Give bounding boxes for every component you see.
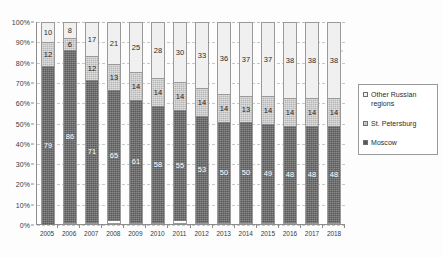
segment-moscow[interactable]: 79 xyxy=(42,67,55,225)
bar-slot: 301455 xyxy=(169,22,191,224)
data-label: 12 xyxy=(88,65,97,73)
legend-item[interactable]: St. Petersburg xyxy=(363,120,433,129)
stacked-bar[interactable]: 371350 xyxy=(239,22,254,224)
segment-other-russian-regions[interactable]: 10 xyxy=(42,23,55,43)
stacked-bar[interactable]: 171271 xyxy=(85,22,100,224)
segment-moscow[interactable]: 50 xyxy=(240,123,253,223)
segment-moscow[interactable]: 58 xyxy=(152,107,165,223)
data-label: 55 xyxy=(176,162,185,170)
data-label: 38 xyxy=(308,57,317,65)
data-label: 37 xyxy=(242,56,251,64)
segment-other-russian-regions[interactable]: 8 xyxy=(64,23,77,39)
segment-moscow[interactable]: 86 xyxy=(64,51,77,223)
stacked-bar[interactable]: 381448 xyxy=(305,22,320,224)
segment-moscow[interactable]: 65 xyxy=(108,91,121,221)
stacked-bar[interactable]: 8686 xyxy=(63,22,78,224)
segment-other-russian-regions[interactable]: 38 xyxy=(328,23,341,99)
segment-other-russian-regions[interactable]: 25 xyxy=(130,23,143,73)
segment-moscow[interactable]: 50 xyxy=(218,123,231,223)
y-axis-label: 60% xyxy=(16,100,30,107)
y-axis-label: 0% xyxy=(20,222,30,229)
segment-st-petersburg[interactable]: 13 xyxy=(240,97,253,123)
stacked-bar[interactable]: 331453 xyxy=(195,22,210,224)
y-axis-tick xyxy=(31,62,34,63)
bar-slot: 251461 xyxy=(125,22,147,224)
data-label: 8 xyxy=(68,27,72,35)
y-axis-tick xyxy=(31,123,34,124)
segment-st-petersburg[interactable]: 14 xyxy=(306,99,319,127)
stacked-bar[interactable]: 381448 xyxy=(283,22,298,224)
data-label: 14 xyxy=(132,83,141,91)
segment-moscow[interactable]: 71 xyxy=(86,81,99,223)
segment-st-petersburg[interactable]: 13 xyxy=(108,65,121,91)
stacked-bar[interactable]: 101279 xyxy=(41,22,56,224)
y-axis-label: 30% xyxy=(16,161,30,168)
bar-slot: 381448 xyxy=(323,22,345,224)
x-axis-label: 2014 xyxy=(235,227,257,243)
bar-slot: 381448 xyxy=(301,22,323,224)
segment-st-petersburg[interactable]: 14 xyxy=(130,73,143,101)
segment-st-petersburg[interactable]: 12 xyxy=(42,43,55,67)
data-label: 21 xyxy=(110,40,119,48)
segment-moscow[interactable]: 48 xyxy=(328,127,341,223)
legend-swatch-icon xyxy=(363,92,368,97)
segment-moscow[interactable]: 53 xyxy=(196,117,209,223)
segment-other-russian-regions[interactable]: 30 xyxy=(174,23,187,83)
segment-moscow[interactable]: 61 xyxy=(130,101,143,223)
segment-other-russian-regions[interactable]: 36 xyxy=(218,23,231,95)
data-label: 13 xyxy=(242,106,251,114)
segment-other-russian-regions[interactable]: 33 xyxy=(196,23,209,89)
data-label: 14 xyxy=(154,89,163,97)
segment-st-petersburg[interactable]: 14 xyxy=(152,79,165,107)
segment-st-petersburg[interactable]: 14 xyxy=(328,99,341,127)
bar-slot: 361450 xyxy=(213,22,235,224)
segment-other-russian-regions[interactable]: 21 xyxy=(108,23,121,65)
segment-st-petersburg[interactable]: 14 xyxy=(174,83,187,111)
data-label: 79 xyxy=(44,142,53,150)
bar-slot: 381448 xyxy=(279,22,301,224)
data-label: 14 xyxy=(308,109,317,117)
data-label: 12 xyxy=(44,51,53,59)
legend-item[interactable]: Other Russian regions xyxy=(363,91,433,109)
x-axis-label: 2007 xyxy=(80,227,102,243)
legend-item[interactable]: Moscow xyxy=(363,139,433,148)
segment-moscow[interactable]: 48 xyxy=(306,127,319,223)
segment-other-russian-regions[interactable]: 37 xyxy=(240,23,253,97)
segment-other-russian-regions[interactable]: 28 xyxy=(152,23,165,79)
segment-other-russian-regions[interactable]: 38 xyxy=(284,23,297,99)
segment-st-petersburg[interactable]: 14 xyxy=(284,99,297,127)
segment-other-russian-regions[interactable]: 37 xyxy=(262,23,275,97)
legend-swatch-icon xyxy=(363,140,368,145)
stacked-bar[interactable]: 381448 xyxy=(327,22,342,224)
segment-moscow[interactable]: 55 xyxy=(174,111,187,221)
x-axis-label: 2015 xyxy=(257,227,279,243)
stacked-bar[interactable]: 371449 xyxy=(261,22,276,224)
segment-other-russian-regions[interactable]: 17 xyxy=(86,23,99,57)
bar-series-container: 1012798686171271211365251461281458301455… xyxy=(37,22,345,224)
segment-st-petersburg[interactable]: 14 xyxy=(196,89,209,117)
x-axis-label: 2012 xyxy=(191,227,213,243)
x-axis-label: 2017 xyxy=(301,227,323,243)
segment-st-petersburg[interactable]: 6 xyxy=(64,39,77,51)
y-axis-tick xyxy=(31,164,34,165)
data-label: 38 xyxy=(286,57,295,65)
y-axis-label: 70% xyxy=(16,79,30,86)
stacked-bar[interactable]: 281458 xyxy=(151,22,166,224)
stacked-bar[interactable]: 251461 xyxy=(129,22,144,224)
segment-st-petersburg[interactable]: 14 xyxy=(218,95,231,123)
segment-other-russian-regions[interactable]: 38 xyxy=(306,23,319,99)
y-axis-tick xyxy=(31,103,34,104)
bar-slot: 371350 xyxy=(235,22,257,224)
stacked-bar[interactable]: 361450 xyxy=(217,22,232,224)
stacked-bar[interactable]: 211365 xyxy=(107,22,122,224)
y-axis-label: 90% xyxy=(16,39,30,46)
segment-st-petersburg[interactable]: 14 xyxy=(262,97,275,125)
data-label: 14 xyxy=(330,109,339,117)
segment-moscow[interactable]: 49 xyxy=(262,125,275,223)
x-axis-label: 2009 xyxy=(124,227,146,243)
stacked-bar[interactable]: 301455 xyxy=(173,22,188,224)
stacked-bar-chart: 0%10%20%30%40%50%60%70%80%90%100% 101279… xyxy=(0,0,443,258)
x-axis-label: 2016 xyxy=(279,227,301,243)
segment-moscow[interactable]: 48 xyxy=(284,127,297,223)
segment-st-petersburg[interactable]: 12 xyxy=(86,57,99,81)
